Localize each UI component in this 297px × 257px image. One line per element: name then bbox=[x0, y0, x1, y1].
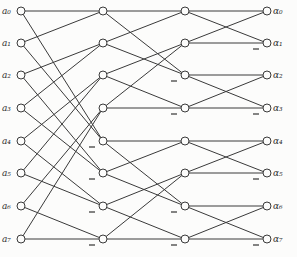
edge-stage1 bbox=[21, 108, 103, 239]
node-c1-r4 bbox=[99, 137, 107, 145]
output-label: α₃ bbox=[273, 103, 283, 113]
node-c1-r6 bbox=[99, 202, 107, 210]
node-c2-r4 bbox=[181, 137, 189, 145]
edge-stage2 bbox=[103, 11, 185, 43]
output-label: α₅ bbox=[273, 168, 283, 178]
edge-stage2 bbox=[103, 75, 185, 108]
output-label: α₄ bbox=[273, 136, 283, 146]
input-label: a₅ bbox=[2, 168, 11, 178]
edge-stage1 bbox=[21, 43, 103, 75]
edge-stage1 bbox=[21, 108, 103, 206]
node-c2-r3 bbox=[181, 104, 189, 112]
edge-stage1 bbox=[21, 43, 103, 141]
output-label: α₇ bbox=[273, 234, 283, 244]
node-c3-r4 bbox=[263, 137, 271, 145]
node-c0-r0 bbox=[17, 7, 25, 15]
edge-stage1 bbox=[21, 43, 103, 108]
input-label: a₂ bbox=[2, 70, 11, 80]
node-c0-r7 bbox=[17, 235, 25, 243]
node-c0-r1 bbox=[17, 39, 25, 47]
input-label: a₁ bbox=[2, 38, 11, 48]
node-c1-r3 bbox=[99, 104, 107, 112]
node-c0-r4 bbox=[17, 137, 25, 145]
input-label: a₃ bbox=[2, 103, 11, 113]
node-c3-r3 bbox=[263, 104, 271, 112]
edge-stage1 bbox=[21, 206, 103, 239]
node-c1-r2 bbox=[99, 71, 107, 79]
node-c3-r6 bbox=[263, 202, 271, 210]
node-c0-r2 bbox=[17, 71, 25, 79]
output-label: α₂ bbox=[273, 70, 283, 80]
output-label: α₁ bbox=[273, 38, 283, 48]
input-label: a₇ bbox=[2, 234, 11, 244]
node-c1-r1 bbox=[99, 39, 107, 47]
node-c3-r2 bbox=[263, 71, 271, 79]
node-c3-r0 bbox=[263, 7, 271, 15]
node-c2-r1 bbox=[181, 39, 189, 47]
fft-flow-graph: a₀a₁a₂a₃a₄a₅a₆a₇α₀α₁α₂α₃α₄α₅α₆α₇ bbox=[0, 0, 297, 257]
node-c3-r5 bbox=[263, 169, 271, 177]
node-c2-r2 bbox=[181, 71, 189, 79]
node-c2-r6 bbox=[181, 202, 189, 210]
node-c3-r7 bbox=[263, 235, 271, 243]
output-label: α₆ bbox=[273, 201, 283, 211]
edge-stage2 bbox=[103, 11, 185, 75]
output-label: α₀ bbox=[273, 6, 283, 16]
node-c0-r5 bbox=[17, 169, 25, 177]
edge-stage1 bbox=[21, 173, 103, 206]
edge-stage1 bbox=[21, 75, 103, 141]
input-label: a₀ bbox=[2, 6, 11, 16]
edge-stage2 bbox=[103, 173, 185, 239]
input-label: a₆ bbox=[2, 201, 11, 211]
node-c0-r6 bbox=[17, 202, 25, 210]
node-c2-r0 bbox=[181, 7, 189, 15]
edge-stage1 bbox=[21, 108, 103, 173]
edge-stage2 bbox=[103, 141, 185, 173]
edge-stage2 bbox=[103, 43, 185, 108]
node-c0-r3 bbox=[17, 104, 25, 112]
node-c3-r1 bbox=[263, 39, 271, 47]
input-label: a₄ bbox=[2, 136, 11, 146]
node-c2-r7 bbox=[181, 235, 189, 243]
node-c1-r7 bbox=[99, 235, 107, 243]
edge-stage2 bbox=[103, 141, 185, 206]
node-c2-r5 bbox=[181, 169, 189, 177]
edge-stage2 bbox=[103, 206, 185, 239]
node-c1-r5 bbox=[99, 169, 107, 177]
edge-stage1 bbox=[21, 11, 103, 43]
node-c1-r0 bbox=[99, 7, 107, 15]
